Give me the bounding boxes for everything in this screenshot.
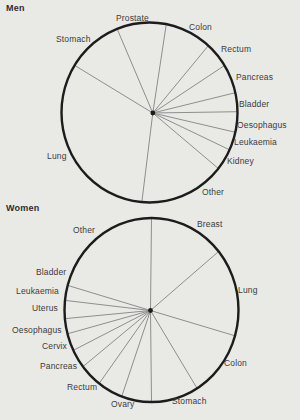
slice-label-men-prostate: Prostate: [116, 13, 149, 23]
slice-label-men-colon: Colon: [189, 22, 212, 32]
slice-label-women-other: Other: [73, 225, 95, 235]
slice-label-women-rectum: Rectum: [67, 382, 97, 392]
slice-label-women-bladder: Bladder: [36, 267, 66, 277]
slice-boundary-women-lung: [151, 251, 219, 310]
slice-label-women-ovary: Ovary: [111, 399, 134, 409]
slice-boundary-men-kidney: [153, 113, 230, 150]
slice-boundary-men-prostate: [117, 29, 153, 113]
slice-label-women-colon: Colon: [224, 358, 247, 368]
slice-boundary-men-bladder: [153, 93, 236, 113]
slice-label-men-lung: Lung: [47, 151, 67, 161]
hub-dot-men: [150, 111, 155, 116]
slice-boundary-men-pancreas: [153, 65, 225, 113]
slice-label-men-stomach: Stomach: [56, 34, 91, 44]
slice-label-men-other: Other: [202, 187, 224, 197]
chart-title-men: Men: [6, 3, 25, 13]
hub-dot-women: [148, 308, 153, 313]
slice-boundary-men-lung: [142, 113, 153, 202]
slice-label-women-oesophagus: Oesophagus: [12, 325, 62, 335]
figure-canvas: Men Women ProstateColonRectumPancreasBla…: [0, 0, 300, 420]
slice-boundary-women-bladder: [65, 300, 151, 310]
slice-label-women-pancreas: Pancreas: [40, 361, 77, 371]
chart-title-women: Women: [6, 203, 39, 213]
slice-boundary-men-leukaemia: [153, 113, 236, 132]
slice-label-men-bladder: Bladder: [239, 99, 269, 109]
slice-boundary-men-oesophagus: [153, 112, 238, 113]
slice-label-women-stomach: Stomach: [172, 396, 207, 406]
slice-label-men-oesophagus: Oesophagus: [237, 120, 287, 130]
slice-label-women-lung: Lung: [238, 285, 258, 295]
slice-label-men-kidney: Kidney: [227, 156, 254, 166]
pie-charts-svg: [0, 0, 300, 420]
slice-label-women-breast: Breast: [197, 219, 222, 229]
slice-boundary-men-other: [153, 113, 219, 169]
slice-boundary-men-stomach: [75, 65, 153, 113]
slice-label-men-rectum: Rectum: [221, 44, 251, 54]
slice-boundary-women-breast: [151, 218, 152, 311]
slice-label-women-cervix: Cervix: [42, 341, 67, 351]
slice-label-women-uterus: Uterus: [32, 303, 58, 313]
slice-label-men-pancreas: Pancreas: [236, 72, 273, 82]
slice-boundary-women-ovary: [151, 311, 152, 403]
slice-boundary-women-other: [68, 285, 151, 310]
slice-label-women-leukaemia: Leukaemia: [16, 286, 59, 296]
slice-label-men-leukaemia: Leukaemia: [234, 137, 277, 147]
